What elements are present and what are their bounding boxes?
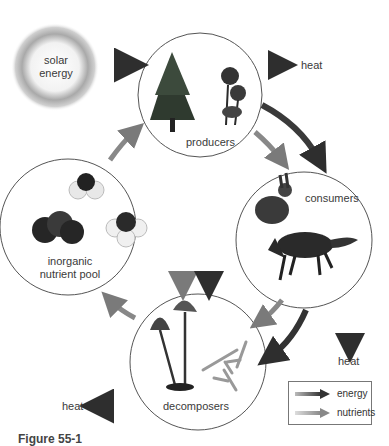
solar-energy-label: solar energy (36, 54, 76, 80)
pool-label-line1: inorganic (38, 255, 102, 268)
arrow-consumers-decomposers-energy (272, 310, 306, 355)
energy-arrow-icon (295, 389, 331, 399)
heat-label-producers: heat (301, 59, 322, 72)
pool-label-line2: nutrient pool (38, 268, 102, 281)
consumers-label: consumers (305, 192, 359, 205)
decomposers-label: decomposers (163, 400, 229, 413)
arrow-consumers-decomposers-nutrients (262, 300, 282, 320)
figure-caption: Figure 55-1 (18, 432, 82, 446)
legend-nutrients: nutrients (295, 407, 375, 418)
arrow-pool-producers (110, 133, 133, 160)
nutrients-arrow-icon (295, 408, 331, 418)
heat-label-consumers: heat (338, 355, 359, 368)
pool-label: inorganic nutrient pool (38, 255, 102, 281)
legend-nutrients-label: nutrients (337, 407, 375, 418)
solar-label-line2: energy (36, 67, 76, 80)
heat-label-decomposers: heat (62, 400, 83, 413)
solar-label-line1: solar (36, 54, 76, 67)
arrow-decomposers-pool (112, 302, 135, 318)
legend: energy nutrients (288, 381, 372, 425)
producers-label: producers (186, 136, 235, 149)
arrow-producers-consumers-nutrients (255, 132, 280, 158)
legend-energy: energy (295, 388, 368, 399)
legend-energy-label: energy (337, 388, 368, 399)
